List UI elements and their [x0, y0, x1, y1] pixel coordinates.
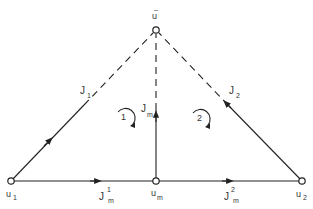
edge-j2-label: J — [229, 86, 234, 96]
network-diagram — [0, 0, 313, 209]
node-u2-label: u — [296, 190, 301, 199]
edge-jm1-sup: 1 — [107, 186, 111, 193]
edge-j1 — [11, 33, 153, 181]
edge-jm2-sup: 2 — [231, 186, 235, 193]
edge-j2-sub: 2 — [236, 92, 240, 99]
loop-2-label: 2 — [197, 114, 202, 123]
node-um — [153, 178, 159, 184]
node-um-sub: m — [157, 194, 163, 201]
edge-jm2-sub: m — [233, 197, 239, 204]
edge-jm1-sub: m — [108, 197, 114, 204]
node-u1-sub: 1 — [13, 194, 17, 201]
edge-j2 — [159, 33, 302, 181]
node-u2-sub: 2 — [303, 194, 307, 201]
node-u-bar-label: u — [152, 12, 157, 21]
node-um-label: u — [151, 189, 156, 198]
loop-1-label: 1 — [121, 113, 126, 122]
edge-jm1-label: J — [99, 192, 104, 202]
j2-arrow-icon — [226, 103, 231, 108]
edge-jm-sub: m — [147, 111, 153, 118]
edge-jm2-label: J — [224, 192, 229, 202]
node-u1-label: u — [6, 190, 11, 199]
node-u2 — [299, 178, 305, 184]
node-u1 — [8, 178, 14, 184]
edge-j1-label: J — [80, 86, 85, 96]
edge-jm-label: J — [141, 104, 146, 114]
j1-arrow-icon — [44, 140, 50, 146]
node-u-bar — [153, 27, 159, 33]
edge-j1-sub: 1 — [87, 92, 91, 99]
